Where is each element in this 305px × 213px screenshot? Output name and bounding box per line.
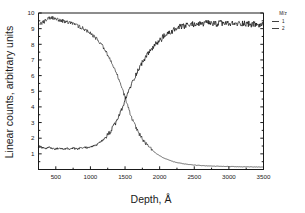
chart-background	[0, 0, 305, 213]
y-axis-title: Linear counts, arbitrary units	[3, 26, 15, 158]
y-tick-label: 7	[31, 56, 35, 63]
chart-canvas: 12345678910 500100015002000250030003500 …	[0, 0, 305, 213]
y-tick-label: 10	[28, 9, 35, 16]
y-tick-label: 3	[31, 119, 35, 126]
x-tick-label: 3000	[222, 173, 236, 180]
chart-figure: 12345678910 500100015002000250030003500 …	[0, 0, 305, 213]
x-tick-label: 2000	[153, 173, 167, 180]
x-axis-title: Depth, Å	[131, 193, 172, 205]
y-tick-label: 6	[31, 72, 35, 79]
y-tick-label: 2	[31, 134, 35, 141]
x-tick-label: 500	[51, 173, 62, 180]
y-tick-label: 9	[31, 25, 35, 32]
legend-entry-label: 1	[282, 19, 285, 24]
x-tick-label: 2500	[187, 173, 201, 180]
x-tick-label: 1500	[118, 173, 132, 180]
x-tick-label: 1000	[84, 173, 98, 180]
y-tick-label: 1	[31, 150, 35, 157]
legend-title: M/z	[279, 11, 287, 16]
y-tick-label: 8	[31, 41, 35, 48]
y-tick-label: 5	[31, 87, 35, 94]
x-tick-label: 3500	[257, 173, 271, 180]
legend-entry-label: 2	[282, 26, 285, 31]
y-tick-label: 4	[31, 103, 35, 110]
